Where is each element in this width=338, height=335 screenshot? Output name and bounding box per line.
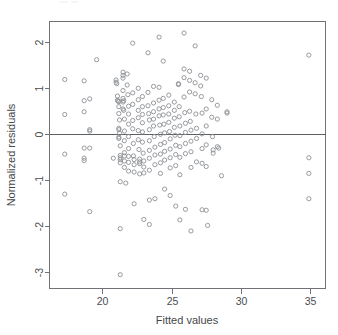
x-tick-label: 25 (167, 295, 179, 307)
residual-scatter-figure: 210-1-2-3 20253035 Fitted values Normali… (0, 0, 338, 335)
y-tick-label: 0 (33, 131, 45, 137)
plot-background (0, 0, 338, 335)
y-tick-label: -2 (33, 222, 45, 231)
x-tick-label: 30 (236, 295, 248, 307)
y-tick-label: -3 (33, 268, 45, 277)
y-axis-title: Normalized residuals (5, 103, 17, 206)
y-tick-label: 1 (33, 85, 45, 91)
y-tick-label: -1 (33, 176, 45, 185)
x-tick-label: 20 (97, 295, 109, 307)
scatter-plot-canvas: 210-1-2-3 20253035 Fitted values Normali… (0, 0, 338, 335)
x-tick-label: 35 (305, 295, 317, 307)
x-axis-title: Fitted values (156, 314, 219, 326)
y-tick-label: 2 (33, 39, 45, 45)
